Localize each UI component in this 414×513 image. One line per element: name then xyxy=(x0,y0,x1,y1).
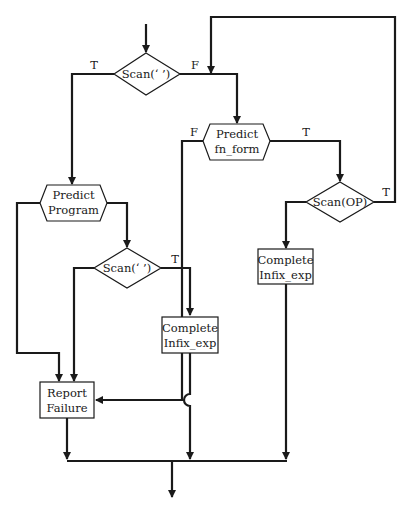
decision-label: Scan(OP) xyxy=(313,195,368,209)
decision-scan-blank-top: Scan(‘ ’) xyxy=(114,53,180,95)
edge-scan-mid-false xyxy=(74,268,94,381)
node-label-line1: Report xyxy=(47,386,87,400)
edge-predict-program-ok xyxy=(107,203,127,247)
node-label-line1: Predict xyxy=(52,188,95,202)
edge-fn-form-true xyxy=(270,141,340,181)
node-label-line1: Complete xyxy=(162,321,218,335)
node-label-line2: fn_form xyxy=(215,142,260,156)
edge-label-false: F xyxy=(190,125,198,139)
edge-label-true: T xyxy=(90,58,98,72)
edge-label-false: F xyxy=(191,58,199,72)
decision-label: Scan(‘ ’) xyxy=(103,261,152,275)
edge-scan-mid-true xyxy=(161,268,190,315)
edge-scan-op-true-loop xyxy=(211,17,395,202)
flowchart-canvas: Scan(‘ ’) Predict fn_form Scan(OP) Compl… xyxy=(0,0,414,513)
decision-scan-op: Scan(OP) xyxy=(306,182,374,222)
edge-label-true: T xyxy=(382,185,390,199)
decision-scan-blank-mid: Scan(‘ ’) xyxy=(94,248,161,288)
edge-scan-top-false xyxy=(180,74,237,123)
node-label-line2: Program xyxy=(48,203,99,217)
node-label-line1: Complete xyxy=(258,253,314,267)
edge-scan-top-true xyxy=(72,74,114,184)
edge-predict-program-fail xyxy=(17,203,59,381)
node-label-line1: Predict xyxy=(216,127,259,141)
node-label-line2: Infix_exp xyxy=(164,336,217,350)
edge-label-true: T xyxy=(171,252,179,266)
hexagon-predict-fn-form: Predict fn_form xyxy=(203,124,270,160)
edge-complete-mid-exit xyxy=(184,353,190,459)
process-report-failure: Report Failure xyxy=(40,382,94,418)
node-label-line2: Infix_exp xyxy=(259,268,312,282)
process-complete-infix-mid: Complete Infix_exp xyxy=(162,317,218,353)
edge-scan-op-false xyxy=(286,202,306,248)
edge-label-true: T xyxy=(302,125,310,139)
process-complete-infix-right: Complete Infix_exp xyxy=(258,249,314,284)
hexagon-predict-program: Predict Program xyxy=(40,185,107,221)
decision-label: Scan(‘ ’) xyxy=(122,67,171,81)
node-label-line2: Failure xyxy=(46,401,87,415)
